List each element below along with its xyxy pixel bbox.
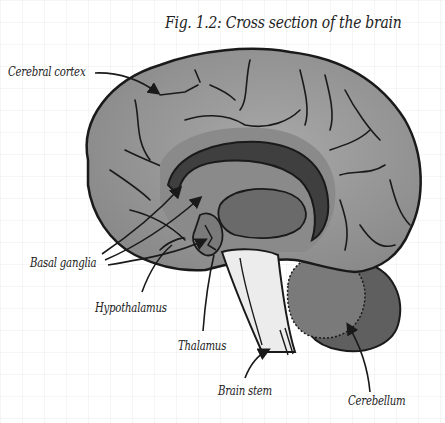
label-cerebral-cortex: Cerebral cortex	[8, 64, 85, 79]
label-brain-stem: Brain stem	[218, 383, 272, 398]
label-thalamus: Thalamus	[178, 338, 226, 353]
label-hypothalamus: Hypothalamus	[95, 300, 167, 315]
thalamus-shape	[218, 189, 306, 238]
medial-region	[160, 128, 335, 256]
brain-stem-arrow	[245, 350, 268, 378]
label-cerebellum: Cerebellum	[348, 393, 405, 408]
figure-title: Fig. 1.2: Cross section of the brain	[165, 12, 401, 32]
brain-stem-shape	[222, 249, 295, 355]
hypothalamus-shape	[193, 213, 223, 255]
label-basal-ganglia: Basal ganglia	[30, 255, 96, 270]
